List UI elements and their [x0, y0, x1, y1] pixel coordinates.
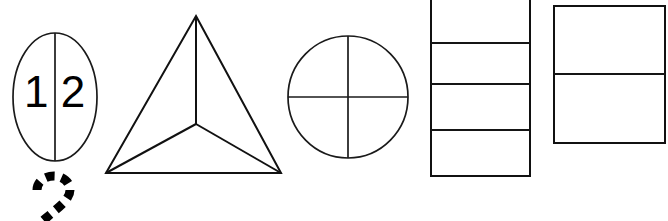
oval-shape-group	[0, 0, 668, 221]
triangle-outline	[106, 16, 281, 173]
dotted-tracing-numeral-two	[36, 176, 72, 221]
oval-right-numeral: 2	[60, 70, 86, 114]
oval-left-numeral: 1	[24, 70, 48, 114]
worksheet-canvas: 1 2	[0, 0, 668, 221]
tall-rectangle-outline	[431, 0, 530, 176]
